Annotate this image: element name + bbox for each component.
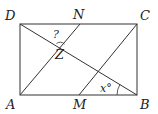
angle-arc-b (117, 85, 120, 95)
label-a: A (5, 97, 15, 112)
label-unknown-angle: ? (53, 28, 59, 41)
geometry-figure: D N C A M B Z ? x° (0, 0, 158, 114)
label-m: M (72, 97, 87, 112)
label-b: B (139, 97, 150, 112)
segment-an (20, 24, 80, 95)
label-z: Z (54, 47, 65, 62)
label-x-degrees: x° (100, 82, 112, 95)
diagram-canvas: D N C A M B Z ? x° (0, 0, 158, 114)
label-c: C (140, 8, 150, 23)
label-d: D (4, 8, 16, 23)
diagonal-db (20, 24, 137, 95)
label-n: N (72, 7, 85, 22)
